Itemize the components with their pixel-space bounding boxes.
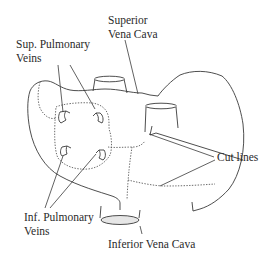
svc-right-opening <box>146 103 177 109</box>
svc-leader <box>125 40 138 94</box>
label-ivc: Inferior Vena Cava <box>108 238 195 250</box>
atrium-outline <box>30 71 244 211</box>
inf-pulmonary-vein-left <box>61 146 72 156</box>
cut-lines-leader-upper <box>149 134 214 157</box>
dotted-cut-upper <box>108 141 145 147</box>
svc-right-vessel <box>145 107 178 132</box>
label-ipv-1: Inf. Pulmonary <box>24 211 94 224</box>
label-cut-lines: Cut lines <box>217 151 259 163</box>
atrium-outline-left <box>28 91 120 210</box>
label-svc-2: Vena Cava <box>108 28 158 40</box>
label-ipv-2: Veins <box>24 225 50 237</box>
sup-pulmonary-vein-left <box>59 111 70 123</box>
svc-left-opening <box>95 76 125 82</box>
sup-pulmonary-vein-right <box>93 113 103 123</box>
left-dotted-contour <box>38 82 56 119</box>
ivc-leader <box>140 226 142 234</box>
cut-lines-leader-lower <box>160 160 215 186</box>
ipv-leader-1 <box>45 156 63 208</box>
label-svc-1: Superior <box>108 14 148 27</box>
dotted-cut-mid <box>127 147 132 200</box>
heart-atria-diagram: Superior Vena Cava Sup. Pulmonary Veins … <box>0 0 272 263</box>
spv-leader-1 <box>58 65 63 112</box>
label-spv-1: Sup. Pulmonary <box>16 38 90 51</box>
inf-pulmonary-vein-right <box>96 150 105 160</box>
ivc-opening <box>101 216 139 225</box>
label-spv-2: Veins <box>16 52 42 64</box>
ipv-leader-2 <box>50 154 96 208</box>
spv-leader-2 <box>70 65 95 109</box>
